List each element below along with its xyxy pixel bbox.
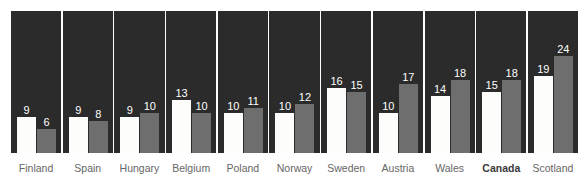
- chart-panel-belgium: 1310: [166, 11, 216, 153]
- bar-wales-series-1: 14: [431, 96, 450, 153]
- bar-value-label: 15: [347, 79, 366, 92]
- category-label-finland: Finland: [11, 158, 61, 178]
- category-label-poland: Poland: [218, 158, 268, 178]
- bar-value-label: 17: [399, 71, 418, 84]
- bar-group: 96: [11, 11, 61, 153]
- bar-value-label: 6: [37, 116, 56, 129]
- plot-area: 969891013101011101216151017141815181924: [11, 11, 563, 153]
- bar-belgium-series-2: 10: [192, 113, 211, 154]
- bar-scotland-series-1: 19: [534, 76, 553, 153]
- category-label-wales: Wales: [425, 158, 475, 178]
- bar-group: 1310: [166, 11, 216, 153]
- bar-spain-series-1: 9: [69, 117, 88, 153]
- category-label-hungary: Hungary: [114, 158, 164, 178]
- bar-group: 1924: [528, 11, 578, 153]
- bar-value-label: 9: [69, 104, 88, 117]
- bar-value-label: 10: [379, 100, 398, 113]
- category-label-sweden: Sweden: [321, 158, 371, 178]
- bar-wales-series-2: 18: [451, 80, 470, 153]
- category-label-spain: Spain: [63, 158, 113, 178]
- bar-hungary-series-2: 10: [140, 113, 159, 154]
- bar-value-label: 10: [192, 100, 211, 113]
- bar-belgium-series-1: 13: [172, 100, 191, 153]
- bar-sweden-series-2: 15: [347, 92, 366, 153]
- bar-value-label: 18: [451, 67, 470, 80]
- bar-value-label: 16: [327, 75, 346, 88]
- bar-value-label: 10: [140, 100, 159, 113]
- bar-canada-series-2: 18: [502, 80, 521, 153]
- category-label-scotland: Scotland: [528, 158, 578, 178]
- bar-value-label: 12: [295, 91, 314, 104]
- category-label-canada: Canada: [476, 158, 526, 178]
- chart-panel-poland: 1011: [218, 11, 268, 153]
- bar-group: 98: [63, 11, 113, 153]
- bar-spain-series-2: 8: [89, 121, 108, 153]
- bar-group: 910: [114, 11, 164, 153]
- chart-panel-spain: 98: [63, 11, 113, 153]
- bar-group: 1012: [269, 11, 319, 153]
- bar-austria-series-2: 17: [399, 84, 418, 153]
- bar-finland-series-1: 9: [17, 117, 36, 153]
- bar-value-label: 18: [502, 67, 521, 80]
- bar-canada-series-1: 15: [482, 92, 501, 153]
- bar-austria-series-1: 10: [379, 113, 398, 154]
- chart-panel-sweden: 1615: [321, 11, 371, 153]
- chart-panel-austria: 1017: [373, 11, 423, 153]
- bar-value-label: 19: [534, 63, 553, 76]
- chart-panel-hungary: 910: [114, 11, 164, 153]
- category-axis: FinlandSpainHungaryBelgiumPolandNorwaySw…: [11, 158, 563, 178]
- bar-value-label: 13: [172, 87, 191, 100]
- bar-value-label: 24: [554, 43, 573, 56]
- bar-value-label: 9: [120, 104, 139, 117]
- category-label-austria: Austria: [373, 158, 423, 178]
- bar-value-label: 11: [244, 95, 263, 108]
- bar-value-label: 15: [482, 79, 501, 92]
- chart-panel-canada: 1518: [476, 11, 526, 153]
- bar-value-label: 9: [17, 104, 36, 117]
- chart-panel-norway: 1012: [269, 11, 319, 153]
- bar-norway-series-2: 12: [295, 104, 314, 153]
- bar-value-label: 10: [275, 100, 294, 113]
- bar-value-label: 10: [224, 100, 243, 113]
- chart-panel-wales: 1418: [425, 11, 475, 153]
- bar-group: 1017: [373, 11, 423, 153]
- category-label-belgium: Belgium: [166, 158, 216, 178]
- bar-sweden-series-1: 16: [327, 88, 346, 153]
- bar-hungary-series-1: 9: [120, 117, 139, 153]
- bar-poland-series-1: 10: [224, 113, 243, 154]
- bar-value-label: 8: [89, 108, 108, 121]
- bar-norway-series-1: 10: [275, 113, 294, 154]
- chart-panel-scotland: 1924: [528, 11, 578, 153]
- bar-group: 1011: [218, 11, 268, 153]
- bar-scotland-series-2: 24: [554, 56, 573, 153]
- bar-group: 1518: [476, 11, 526, 153]
- chart-panel-finland: 96: [11, 11, 61, 153]
- bar-group: 1418: [425, 11, 475, 153]
- bar-finland-series-2: 6: [37, 129, 56, 153]
- category-label-norway: Norway: [269, 158, 319, 178]
- bar-group: 1615: [321, 11, 371, 153]
- bar-poland-series-2: 11: [244, 108, 263, 153]
- bar-value-label: 14: [431, 83, 450, 96]
